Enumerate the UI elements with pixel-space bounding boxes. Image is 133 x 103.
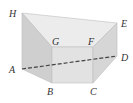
vertex-label-C: C [90,86,97,97]
vertex-label-D: D [120,52,129,63]
vertex-label-F: F [87,36,95,47]
vertex-label-G: G [52,36,59,47]
prism-diagram: H E G F D A B C [0,0,133,103]
vertex-label-B: B [47,86,53,97]
vertex-label-A: A [8,64,16,75]
front-face [52,47,93,83]
vertex-label-H: H [8,8,17,19]
vertex-label-E: E [120,18,127,29]
